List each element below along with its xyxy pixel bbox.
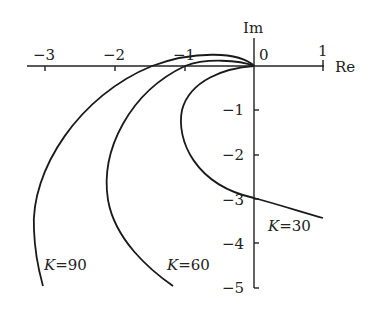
- x-tick-label: −2: [103, 46, 125, 64]
- x-tick-label: 1: [318, 42, 328, 60]
- y-tick-label: −2: [222, 146, 244, 164]
- re-axis-label: Re: [335, 58, 355, 76]
- k30-label: K=30: [267, 217, 311, 235]
- x-tick-label: −3: [33, 46, 55, 64]
- y-tick-label: −4: [222, 235, 244, 253]
- k90-label: K=90: [43, 256, 87, 274]
- curve-k30: [181, 66, 323, 218]
- nyquist-plot: −3 −2 −1 0 1 −1 −2 −3 −4 −5 Im Re K=30 K…: [0, 0, 377, 311]
- y-tick-label: −5: [222, 279, 244, 297]
- k60-label: K=60: [166, 256, 210, 274]
- x-tick-label: 0: [259, 46, 269, 64]
- x-tick-label: −1: [173, 46, 195, 64]
- im-axis-label: Im: [243, 19, 263, 37]
- curve-k90: [34, 55, 254, 286]
- y-tick-label: −1: [222, 101, 244, 119]
